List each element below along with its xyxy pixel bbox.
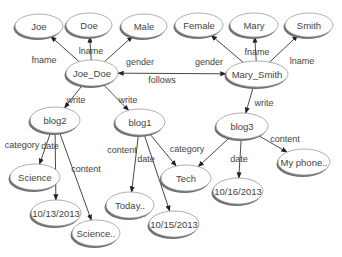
node-blog2: blog2 <box>29 107 81 135</box>
node-doe: Doe <box>65 13 113 39</box>
node-label: Science <box>18 172 52 183</box>
edge-label: content <box>107 145 137 155</box>
node-date1015: 10/15/2013 <box>148 211 200 239</box>
edge-label: category <box>170 144 205 154</box>
node-joe_doe: Joe_Doe <box>65 60 119 88</box>
node-label: Mary_Smith <box>232 69 283 80</box>
node-label: Smith <box>297 20 321 31</box>
node-mary: Mary <box>229 13 279 39</box>
edge-follows-mary_smith-joe_doe <box>118 73 226 74</box>
node-joe: Joe <box>14 14 64 40</box>
node-blog1: blog1 <box>114 109 166 137</box>
node-label: Today.. <box>115 200 145 211</box>
edge-label: lname <box>79 46 104 56</box>
node-date1013: 10/13/2013 <box>30 200 82 228</box>
edge-label: category <box>5 140 40 150</box>
node-label: Mary <box>243 20 264 31</box>
node-female: Female <box>174 13 224 39</box>
node-tech: Tech <box>160 165 212 193</box>
node-date1016: 10/16/2013 <box>212 178 264 206</box>
node-label: Female <box>183 20 215 31</box>
node-label: Male <box>134 21 155 32</box>
edge-label: date <box>41 141 59 151</box>
node-science: Science <box>9 164 61 192</box>
node-male: Male <box>120 14 168 40</box>
edge-label: content <box>71 164 101 174</box>
graph-svg: JoeDoeMaleJoe_DoeFemaleMarySmithMary_Smi… <box>0 0 342 257</box>
node-mary_smith: Mary_Smith <box>225 61 289 89</box>
node-label: Joe <box>31 21 46 32</box>
edge-write-mary_smith-blog3 <box>246 87 254 113</box>
node-smith: Smith <box>284 13 334 39</box>
edge-label: follows <box>148 75 176 85</box>
edge-label: lname <box>290 56 315 66</box>
edge-label: gender <box>126 57 154 67</box>
edge-label: date <box>230 154 248 164</box>
node-label: blog2 <box>43 115 66 126</box>
node-myphone: My phone.. <box>277 149 331 177</box>
edge-label: write <box>253 98 273 108</box>
edge-label: fname <box>31 55 56 65</box>
node-label: 10/13/2013 <box>32 208 80 219</box>
node-label: 10/16/2013 <box>214 186 262 197</box>
node-label: Joe_Doe <box>73 68 111 79</box>
node-label: 10/15/2013 <box>150 219 198 230</box>
edge-label: date <box>137 154 155 164</box>
edge-label: write <box>117 95 137 105</box>
edge-label: fname <box>244 47 269 57</box>
node-label: Doe <box>80 20 97 31</box>
edge-label: gender <box>195 57 223 67</box>
node-label: Science.. <box>76 228 115 239</box>
graph-diagram: JoeDoeMaleJoe_DoeFemaleMarySmithMary_Smi… <box>0 0 342 257</box>
node-science_content: Science.. <box>71 220 121 248</box>
node-label: blog3 <box>230 121 253 132</box>
node-label: Tech <box>176 173 196 184</box>
node-label: blog1 <box>128 117 151 128</box>
edge-label: write <box>65 95 85 105</box>
edge-label: content <box>270 134 300 144</box>
node-today: Today.. <box>105 192 155 220</box>
node-label: My phone.. <box>281 157 328 168</box>
